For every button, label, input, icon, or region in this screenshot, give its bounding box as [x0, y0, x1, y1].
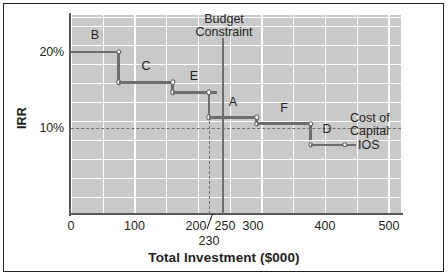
ios-step-label-A: A: [229, 95, 237, 109]
x-axis-line: [69, 213, 403, 215]
ios-step-label-B: B: [91, 28, 99, 42]
ios-step-label-F: F: [280, 101, 288, 115]
ios-step-segment-C: [119, 81, 173, 84]
x-tick-label-300: 300: [243, 219, 264, 233]
cost-of-capital-label-line2: Capital: [350, 125, 389, 139]
x-tick-label-200: 200: [186, 219, 207, 233]
x-tick-label-0: 0: [68, 219, 75, 233]
ios-step-segment-D: [311, 144, 345, 147]
x-annotation-230: 230: [199, 234, 220, 248]
budget-constraint-label-line2: Constraint: [196, 26, 253, 39]
ios-step-drop-B-C: [117, 52, 120, 82]
x-tick-label-100: 100: [124, 219, 145, 233]
ios-step-segment-F: [257, 122, 311, 125]
ios-label-leader: [346, 144, 356, 147]
ios-step-segment-A: [209, 116, 257, 119]
y-axis-line: [69, 13, 71, 216]
y-tick-label-20: 20%: [30, 45, 64, 59]
x-tick-label-400: 400: [315, 219, 336, 233]
chart-figure: IRR Total Investment ($000) 20% 10% 0 10…: [0, 0, 448, 276]
ios-step-segment-B: [71, 51, 119, 54]
ios-step-label-C: C: [141, 59, 150, 73]
y-axis-title: IRR: [15, 107, 29, 129]
y-tick-label-10: 10%: [30, 121, 64, 135]
ios-step-drop-E-A: [208, 92, 211, 117]
x-axis-title: Total Investment ($000): [148, 250, 299, 265]
x-tick-label-500: 500: [379, 219, 400, 233]
budget-constraint-line: [222, 38, 225, 214]
ios-step-label-D: D: [322, 122, 331, 136]
ios-step-drop-F-D: [309, 124, 312, 140]
budget-constraint-dash-230: [209, 116, 210, 214]
x-tick-label-250: 250: [215, 219, 236, 233]
ios-series-label: IOS: [358, 138, 380, 152]
ios-step-label-E: E: [190, 69, 198, 83]
